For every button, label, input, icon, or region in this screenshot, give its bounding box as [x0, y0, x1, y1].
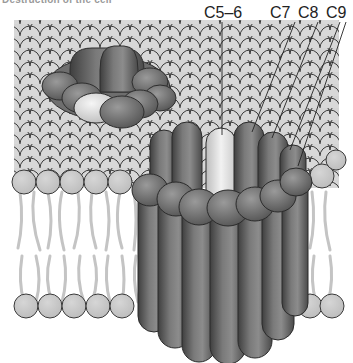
label-c7: C7	[270, 4, 290, 22]
label-c9: C9	[326, 4, 346, 22]
large-pore	[132, 122, 312, 363]
membrane-attack-complex-diagram	[0, 0, 353, 363]
label-c8: C8	[298, 4, 318, 22]
label-c5-6: C5–6	[204, 4, 242, 22]
